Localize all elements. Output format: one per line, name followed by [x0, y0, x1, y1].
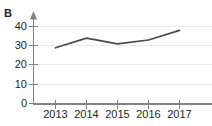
x-tick-label-2015: 2015: [105, 108, 129, 120]
y-tick-labels: 40 30 20 10 0: [15, 20, 27, 109]
x-tick-label-2016: 2016: [136, 108, 160, 120]
y-tick-label-30: 30: [15, 39, 27, 51]
y-tick-label-0: 0: [21, 97, 27, 109]
y-axis: [29, 11, 38, 104]
gridlines: [33, 27, 212, 85]
x-tick-labels: 2013 2014 2015 2016 2017: [43, 108, 191, 120]
y-axis-arrow-icon: [30, 11, 37, 20]
x-tick-label-2014: 2014: [74, 108, 98, 120]
y-tick-label-20: 20: [15, 58, 27, 70]
x-tick-label-2013: 2013: [43, 108, 67, 120]
line-chart: 40 30 20 10 0 2013 2014 2015 2016 2017: [0, 0, 212, 126]
y-tick-label-10: 10: [15, 78, 27, 90]
y-tick-label-40: 40: [15, 20, 27, 32]
chart-figure: B 40 30 20 10 0: [0, 0, 212, 126]
x-tick-label-2017: 2017: [167, 108, 191, 120]
